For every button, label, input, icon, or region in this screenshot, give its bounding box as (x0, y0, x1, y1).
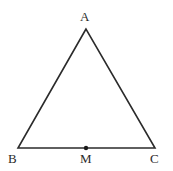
vertex-label-a: A (80, 10, 89, 23)
point-label-m: M (80, 152, 92, 165)
vertex-label-b: B (8, 152, 17, 165)
midpoint-m-dot (84, 146, 88, 150)
triangle-abc-shape (18, 29, 155, 148)
triangle-diagram-svg (0, 0, 173, 171)
vertex-label-c: C (150, 152, 159, 165)
geometry-figure: A B M C (0, 0, 173, 171)
